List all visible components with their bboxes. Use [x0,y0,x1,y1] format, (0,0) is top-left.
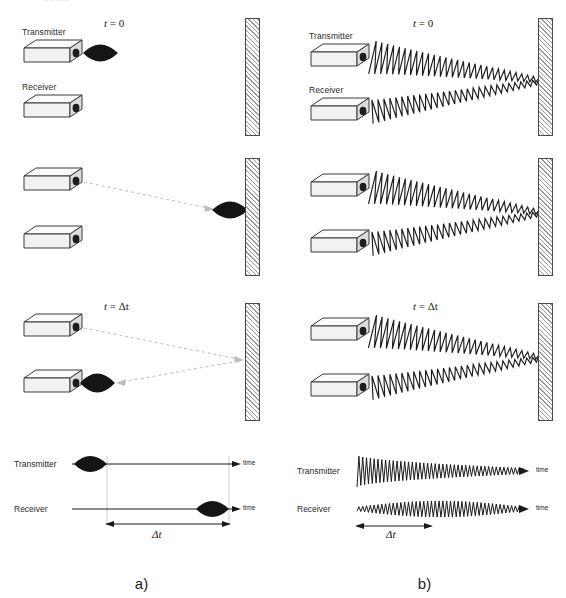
scene-b-1: t = 0 Transmitter Receiver [283,0,566,150]
timing-b-interval-arrow [355,523,433,529]
scene-b-1-graphics [283,0,566,150]
beam-return-b-3 [372,357,539,400]
trajectory-outgoing-a-2 [84,182,214,212]
scene-b-2 [283,150,566,290]
scene-a-3: t = Δt [0,290,283,435]
receiver-box-b-1 [311,98,369,120]
panel-continuous-wave: t = 0 Transmitter Receiver [283,0,566,598]
wall-b-2 [538,158,553,276]
trajectory-return-a-3 [116,361,238,386]
trajectory-outgoing-a-3 [84,328,244,363]
transmitter-box-a-3 [24,314,82,336]
timing-a: Transmitter Receiver time time Δt [0,440,283,550]
transmitter-box-a-1 [24,40,82,62]
scene-a-2-graphics [0,150,283,290]
transmitter-box-b-1 [311,44,369,66]
wall-a-1 [245,18,260,136]
pulse-packet-a-3 [80,374,115,393]
wall-a-3 [245,303,260,421]
timing-a-burst-transmitter [74,456,107,472]
receiver-box-a-3 [24,370,82,392]
scene-a-3-graphics [0,290,283,435]
timing-a-graphics [0,440,283,550]
caption-a: a) [0,575,283,592]
pulse-packet-a-1 [83,45,118,62]
timing-b: Transmitter Receiver time time Δt [283,440,566,550]
receiver-box-b-2 [311,230,369,252]
beam-outgoing-b-3 [368,315,539,359]
beam-outgoing-b-2 [369,171,540,214]
caption-b: b) [283,575,566,592]
timing-b-graphics [283,440,566,550]
pulse-packet-a-2 [212,202,248,219]
scene-a-1-graphics [0,0,283,150]
wall-b-1 [538,18,553,136]
transmitter-box-a-2 [24,168,82,190]
wall-a-2 [245,158,260,276]
beam-outgoing-b-1 [369,41,540,82]
beam-return-b-2 [372,212,539,256]
scene-b-3-graphics [283,290,566,435]
panel-pulse-echo: t = 0 Transmitter Receiver [0,0,283,598]
wall-b-3 [538,303,553,421]
receiver-box-b-3 [311,374,369,396]
receiver-box-a-1 [24,95,82,117]
scene-a-1: t = 0 Transmitter Receiver [0,0,283,150]
timing-a-interval-arrow [105,521,231,527]
transmitter-box-b-3 [311,318,369,340]
transmitter-box-b-2 [311,174,369,196]
beam-return-b-1 [372,80,539,124]
timing-b-wave-transmitter [357,456,523,487]
scene-a-2 [0,150,283,290]
receiver-box-a-2 [24,226,82,248]
scene-b-2-graphics [283,150,566,290]
scene-b-3: t = Δt [283,290,566,435]
timing-a-burst-receiver [196,501,229,517]
timing-b-wave-receiver [357,501,523,517]
